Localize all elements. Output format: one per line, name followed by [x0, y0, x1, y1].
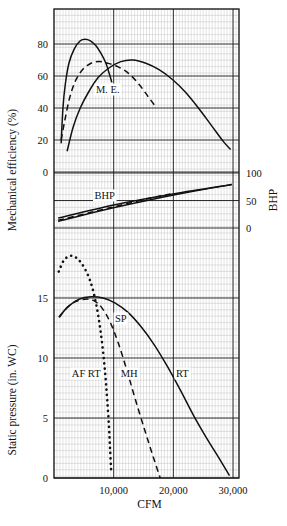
annotation-rt: RT [176, 368, 189, 379]
y-axis-title-static-pressure: Static pressure (in. WC) [6, 344, 19, 455]
series-static-pressure-rt [59, 297, 230, 476]
ytick-me-40: 40 [38, 103, 49, 114]
annotation-m-e-: M. E. [96, 84, 120, 95]
y-axis-title-bhp: BHP [267, 189, 279, 211]
y-axis-title-mechanical-efficiency: Mechanical efficiency (%) [6, 109, 19, 232]
ytick-sp-5: 5 [43, 413, 48, 424]
xtick-10000: 10,000 [99, 485, 128, 496]
x-axis-title: CFM [137, 498, 161, 510]
chart-figure: 02040608005010005101510,00020,00030,000C… [0, 0, 287, 526]
series-bhp-rt [58, 185, 232, 222]
annotation-sp: SP [115, 313, 127, 324]
ytick-bhp-100: 100 [246, 168, 262, 179]
ytick-bhp-0: 0 [246, 223, 251, 234]
ytick-me-20: 20 [38, 135, 49, 146]
ytick-bhp-50: 50 [246, 196, 257, 207]
series-static-pressure-af-rt [59, 256, 112, 473]
annotation-af-rt: AF RT [72, 368, 101, 379]
annotation-bhp: BHP [95, 190, 116, 201]
ytick-me-60: 60 [38, 71, 49, 82]
xtick-30000: 30,000 [219, 485, 248, 496]
ytick-me-80: 80 [38, 39, 49, 50]
series-static-pressure-mh [59, 299, 160, 478]
ytick-me-0: 0 [43, 167, 48, 178]
annotation-mh: MH [121, 368, 138, 379]
ytick-sp-0: 0 [43, 473, 48, 484]
fan-performance-chart: 02040608005010005101510,00020,00030,000C… [0, 0, 287, 526]
ytick-sp-15: 15 [38, 293, 49, 304]
ytick-sp-10: 10 [38, 353, 49, 364]
minor-grid [54, 9, 239, 478]
xtick-20000: 20,000 [159, 485, 188, 496]
